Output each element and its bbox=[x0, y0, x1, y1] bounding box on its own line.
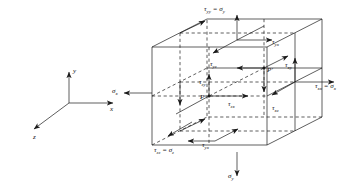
label-tau-zy-left: τzy bbox=[199, 78, 206, 87]
point-label-p: P bbox=[199, 93, 205, 101]
label-tau-yz-top: τyz bbox=[210, 60, 217, 69]
label-tau-xz-right: τxz bbox=[272, 104, 279, 113]
axis-label-x: x bbox=[109, 105, 114, 113]
label-sigma-x-left: σx bbox=[112, 87, 118, 96]
point-p-prime-marker bbox=[263, 67, 266, 70]
axis-z-arrow bbox=[34, 103, 69, 129]
point-label-p-prime: P' bbox=[266, 66, 273, 74]
label-tau-yy-sigma-y: τyy = σy bbox=[204, 5, 226, 14]
arrow-back-bottom-out bbox=[180, 119, 205, 131]
axis-label-y: y bbox=[72, 67, 77, 75]
label-tau-yx-top: τyx bbox=[272, 38, 280, 47]
stress-element-svg: y x z P P' τyy = σy τyx τyz τxy τxx = σx… bbox=[0, 0, 360, 192]
point-p-marker bbox=[208, 95, 211, 98]
label-sigma-y-bottom: σy bbox=[228, 172, 234, 181]
label-tau-zz-sigma-z: τzz = σz bbox=[154, 146, 174, 155]
label-tau-yx-bottom: τyx bbox=[202, 141, 210, 150]
coordinate-triad bbox=[34, 72, 113, 129]
label-tau-xx-sigma-x: τxx = σx bbox=[315, 82, 337, 91]
arrow-back-left-out bbox=[180, 21, 205, 33]
stress-element-figure: y x z P P' τyy = σy τyx τyz τxy τxx = σx… bbox=[0, 0, 360, 192]
label-tau-xy-right: τxy bbox=[285, 61, 293, 70]
arrow-tau-yz-top bbox=[213, 40, 237, 53]
arrow-tau-xz bbox=[272, 82, 295, 95]
label-tau-zx-front: τzx bbox=[228, 100, 235, 109]
axis-label-z: z bbox=[32, 133, 36, 141]
arrow-tau-zz bbox=[168, 122, 192, 136]
